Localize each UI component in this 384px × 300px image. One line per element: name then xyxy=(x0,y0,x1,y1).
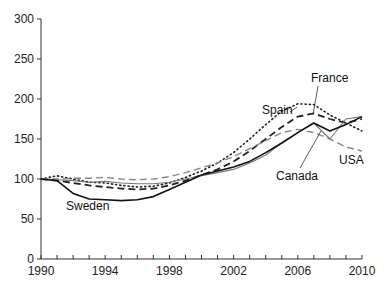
x-tick-label: 2006 xyxy=(284,264,311,278)
y-tick-label: 50 xyxy=(21,212,35,226)
annotation-france: France xyxy=(311,71,349,85)
y-tick-label: 200 xyxy=(14,92,34,106)
x-tick-label: 2010 xyxy=(349,264,376,278)
y-tick-label: 250 xyxy=(14,52,34,66)
annotations-group: SpainFranceUSACanadaSweden xyxy=(66,71,364,213)
y-tick-label: 100 xyxy=(14,172,34,186)
axes: 0501001502002503001990199419982002200620… xyxy=(14,12,376,278)
annotation-leader xyxy=(300,131,321,168)
y-tick-label: 300 xyxy=(14,12,34,26)
x-tick-label: 2002 xyxy=(220,264,247,278)
x-tick-label: 1998 xyxy=(156,264,183,278)
annotation-usa: USA xyxy=(339,153,364,167)
annotation-canada: Canada xyxy=(276,169,318,183)
x-tick-label: 1994 xyxy=(92,264,119,278)
annotation-spain: Spain xyxy=(262,103,293,117)
y-tick-label: 150 xyxy=(14,132,34,146)
series-sweden xyxy=(41,117,362,201)
annotation-sweden: Sweden xyxy=(66,199,109,213)
line-chart: 0501001502002503001990199419982002200620… xyxy=(0,0,384,300)
annotation-leader xyxy=(313,86,318,115)
series-group xyxy=(41,104,362,201)
x-tick-label: 1990 xyxy=(28,264,55,278)
